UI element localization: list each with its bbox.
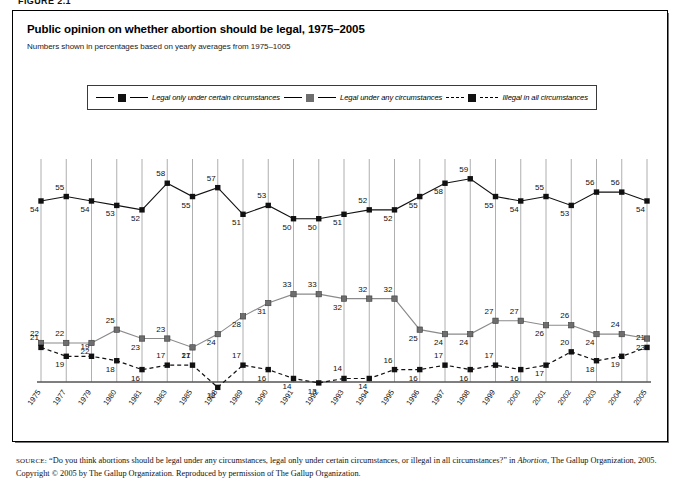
data-point[interactable]: [392, 296, 397, 301]
data-point[interactable]: [316, 291, 321, 296]
data-point[interactable]: [190, 362, 195, 367]
data-point[interactable]: [139, 336, 144, 341]
data-point[interactable]: [619, 354, 624, 359]
data-point[interactable]: [644, 345, 649, 350]
data-point[interactable]: [468, 367, 473, 372]
data-point[interactable]: [619, 189, 624, 194]
data-point[interactable]: [644, 336, 649, 341]
data-point[interactable]: [266, 203, 271, 208]
data-point[interactable]: [442, 362, 447, 367]
data-point[interactable]: [619, 331, 624, 336]
data-point[interactable]: [89, 354, 94, 359]
data-point[interactable]: [139, 207, 144, 212]
data-point[interactable]: [266, 367, 271, 372]
data-point[interactable]: [392, 367, 397, 372]
data-point[interactable]: [291, 216, 296, 221]
x-axis-tick-label: 1993: [329, 388, 346, 407]
data-point[interactable]: [468, 331, 473, 336]
data-point[interactable]: [190, 345, 195, 350]
data-point[interactable]: [367, 296, 372, 301]
legend-item-any[interactable]: Legal under any circumstances: [284, 93, 442, 102]
data-point[interactable]: [114, 203, 119, 208]
data-label: 55: [535, 183, 544, 192]
data-point[interactable]: [493, 318, 498, 323]
data-point[interactable]: [417, 367, 422, 372]
data-point[interactable]: [594, 189, 599, 194]
x-axis-tick-label: 1988: [202, 388, 219, 407]
data-label: 28: [232, 320, 241, 329]
data-point[interactable]: [341, 376, 346, 381]
data-point[interactable]: [215, 331, 220, 336]
x-axis-tick-label: 1983: [152, 388, 169, 407]
data-point[interactable]: [392, 207, 397, 212]
data-point[interactable]: [518, 198, 523, 203]
data-label: 21: [30, 333, 39, 342]
data-point[interactable]: [442, 181, 447, 186]
data-point[interactable]: [291, 291, 296, 296]
data-point[interactable]: [442, 331, 447, 336]
data-point[interactable]: [316, 216, 321, 221]
data-point[interactable]: [417, 194, 422, 199]
data-point[interactable]: [543, 362, 548, 367]
data-point[interactable]: [468, 176, 473, 181]
x-axis-tick-label: 1979: [76, 388, 93, 407]
data-point[interactable]: [367, 376, 372, 381]
data-point[interactable]: [240, 212, 245, 217]
data-point[interactable]: [291, 376, 296, 381]
data-point[interactable]: [215, 185, 220, 190]
data-point[interactable]: [139, 367, 144, 372]
data-point[interactable]: [341, 212, 346, 217]
data-point[interactable]: [215, 385, 220, 390]
data-point[interactable]: [518, 318, 523, 323]
data-point[interactable]: [89, 340, 94, 345]
data-label: 33: [308, 280, 317, 289]
x-axis-tick-label: 2003: [581, 388, 598, 407]
data-point[interactable]: [64, 340, 69, 345]
data-point[interactable]: [417, 327, 422, 332]
data-point[interactable]: [316, 380, 321, 385]
data-point[interactable]: [165, 336, 170, 341]
x-axis-tick-label: 1980: [101, 388, 118, 407]
legend-item-illegal[interactable]: Illegal in all circumstances: [446, 93, 587, 102]
data-point[interactable]: [64, 194, 69, 199]
data-point[interactable]: [38, 345, 43, 350]
legend-line-solid-icon: [96, 97, 114, 98]
data-point[interactable]: [543, 323, 548, 328]
data-point[interactable]: [114, 327, 119, 332]
data-point[interactable]: [240, 314, 245, 319]
data-point[interactable]: [341, 296, 346, 301]
data-point[interactable]: [266, 300, 271, 305]
data-point[interactable]: [569, 323, 574, 328]
data-point[interactable]: [165, 181, 170, 186]
figure-card: Public opinion on whether abortion shoul…: [12, 10, 668, 442]
data-point[interactable]: [493, 194, 498, 199]
data-point[interactable]: [594, 358, 599, 363]
data-point[interactable]: [38, 198, 43, 203]
data-point[interactable]: [64, 354, 69, 359]
data-point[interactable]: [240, 362, 245, 367]
data-label: 17: [232, 351, 241, 360]
legend-label-illegal: Illegal in all circumstances: [502, 93, 587, 102]
data-point[interactable]: [518, 367, 523, 372]
data-point[interactable]: [543, 194, 548, 199]
data-point[interactable]: [367, 207, 372, 212]
data-label: 51: [333, 218, 342, 227]
data-point[interactable]: [569, 203, 574, 208]
data-label: 52: [131, 214, 140, 223]
legend-label-certain: Legal only under certain circumstances: [152, 93, 280, 102]
data-point[interactable]: [114, 358, 119, 363]
data-label: 16: [510, 374, 519, 383]
gray-square-marker-icon: [306, 94, 314, 102]
legend-item-certain[interactable]: Legal only under certain circumstances: [96, 93, 280, 102]
data-point[interactable]: [89, 198, 94, 203]
x-axis-tick-label: 2005: [632, 388, 649, 407]
data-point[interactable]: [190, 194, 195, 199]
data-label: 17: [535, 369, 544, 378]
legend-line-solid-icon: [284, 97, 302, 98]
data-point[interactable]: [569, 349, 574, 354]
data-point[interactable]: [644, 198, 649, 203]
data-point[interactable]: [165, 362, 170, 367]
data-point[interactable]: [493, 362, 498, 367]
source-note: SOURCE: “Do you think abortions should b…: [16, 455, 666, 479]
data-point[interactable]: [594, 331, 599, 336]
